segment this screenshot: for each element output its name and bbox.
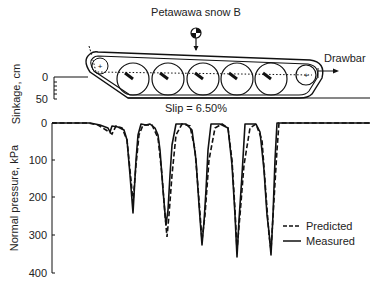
sinkage-axis: 0 50 (36, 71, 88, 105)
center-of-gravity-icon (191, 28, 201, 51)
svg-text:+: + (304, 71, 309, 80)
sinkage-axis-label: Sinkage, cm (10, 64, 22, 125)
sinkage-tick-0: 0 (42, 71, 48, 83)
svg-text:+: + (98, 62, 103, 71)
pressure-tick-0: 0 (41, 117, 47, 129)
slip-label: Slip = 6.50% (165, 102, 227, 114)
drawbar-arrow-icon (318, 68, 339, 78)
figure-canvas: Petawawa snow B Drawbar 0 50 Sinkage, cm… (0, 0, 378, 287)
pressure-tick-400: 400 (29, 267, 47, 279)
sinkage-tick-50: 50 (36, 93, 48, 105)
legend-measured: Measured (306, 235, 355, 247)
legend-predicted: Predicted (306, 220, 352, 232)
drawbar-label: Drawbar (324, 52, 366, 64)
chart-legend: Predicted Measured (283, 220, 355, 247)
figure-title: Petawawa snow B (151, 6, 241, 18)
pressure-axis: 0 100 200 300 400 (29, 117, 56, 279)
tracked-vehicle-diagram: + + (86, 46, 323, 98)
pressure-tick-200: 200 (29, 191, 47, 203)
pressure-tick-300: 300 (29, 229, 47, 241)
pressure-axis-label: Normal pressure, kPa (8, 144, 20, 251)
pressure-tick-100: 100 (29, 154, 47, 166)
